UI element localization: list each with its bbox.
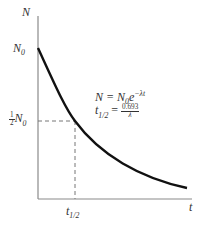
y-axis-label: N bbox=[22, 6, 30, 18]
y-tick-n0: N0 bbox=[13, 42, 25, 54]
x-tick-t-half: t1/2 bbox=[66, 205, 79, 217]
y-tick-half-n0: 12N0 bbox=[9, 112, 27, 127]
half-life-equation: t1/2 = 0.693λ bbox=[95, 104, 139, 119]
decay-equation: N = N0e−λt bbox=[95, 91, 145, 103]
x-axis-label: t bbox=[189, 201, 192, 213]
